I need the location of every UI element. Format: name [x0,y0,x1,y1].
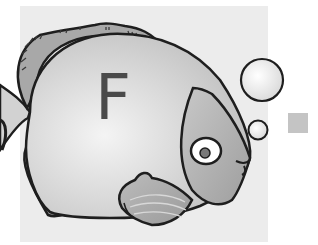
bubble-small [249,121,268,140]
side-square [288,113,308,133]
letter-label: F [93,68,133,128]
bubble-large [241,59,283,101]
fish-eye [191,138,221,164]
fish-illustration [0,0,318,245]
